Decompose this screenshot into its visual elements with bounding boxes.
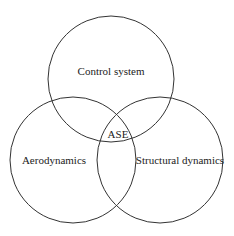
aerodynamics-label: Aerodynamics xyxy=(22,154,86,166)
ase-intersection-label: ASE xyxy=(108,128,129,140)
control-system-circle xyxy=(48,16,174,142)
structural-dynamics-label: Structural dynamics xyxy=(136,154,224,166)
control-system-label: Control system xyxy=(78,65,145,77)
venn-diagram xyxy=(0,0,234,236)
